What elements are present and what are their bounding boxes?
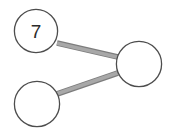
node-top-left[interactable]: 7: [14, 9, 57, 52]
node-top-left-label: 7: [31, 21, 42, 42]
edge-top-left-to-right[interactable]: [57, 43, 118, 57]
graph-canvas: 7: [0, 0, 171, 138]
edge-group: [57, 43, 118, 94]
edge-bottom-left-to-right-core: [57, 73, 118, 94]
node-bottom-left[interactable]: [14, 81, 59, 126]
graph-svg: 7: [0, 0, 171, 138]
node-right-circle[interactable]: [116, 41, 161, 86]
node-right[interactable]: [116, 41, 161, 86]
node-group: 7: [14, 9, 161, 126]
edge-bottom-left-to-right[interactable]: [57, 73, 118, 94]
node-bottom-left-circle[interactable]: [14, 81, 59, 126]
edge-top-left-to-right-core: [57, 43, 118, 57]
